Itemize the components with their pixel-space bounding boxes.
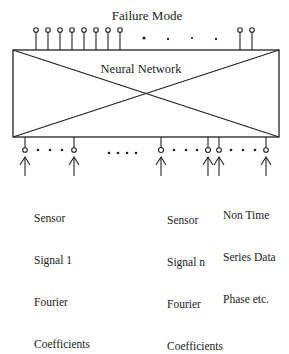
output-pins-left [34, 28, 123, 50]
input-pin [69, 137, 79, 176]
label-line: Fourier [34, 295, 90, 309]
input-label-sensor-n: Sensor Signal n Fourier Coefficients [167, 185, 223, 354]
input-pin [214, 137, 224, 176]
output-pin [70, 28, 75, 50]
label-line: Phase etc. [223, 292, 276, 306]
label-line: Coefficients [167, 339, 223, 353]
output-pin [106, 28, 111, 50]
input-label-sensor-1: Sensor Signal 1 Fourier Coefficients [34, 183, 90, 354]
input-pin [203, 137, 213, 176]
output-pins-right [238, 28, 255, 50]
output-pin [118, 28, 123, 50]
output-pin [46, 28, 51, 50]
input-label-non-time-series: Non Time Series Data Phase etc. [223, 180, 276, 320]
label-line: Sensor [167, 213, 223, 227]
output-pin [94, 28, 99, 50]
output-ellipsis [142, 36, 217, 40]
label-line: Series Data [223, 250, 276, 264]
output-pin [34, 28, 39, 50]
label-line: Signal 1 [34, 253, 90, 267]
input-pins [20, 137, 271, 176]
input-ellipsis [37, 149, 257, 155]
output-pin [250, 28, 255, 50]
label-line: Non Time [223, 208, 276, 222]
output-pin [238, 28, 243, 50]
neural-network-label: Neural Network [101, 62, 183, 76]
output-pin [58, 28, 63, 50]
failure-mode-title: Failure Mode [112, 8, 183, 23]
label-line: Sensor [34, 211, 90, 225]
input-pin [20, 137, 30, 176]
label-line: Coefficients [34, 337, 90, 351]
input-pin [156, 137, 166, 176]
label-line: Fourier [167, 297, 223, 311]
input-pin [261, 137, 271, 176]
output-pin [82, 28, 87, 50]
label-line: Signal n [167, 255, 223, 269]
